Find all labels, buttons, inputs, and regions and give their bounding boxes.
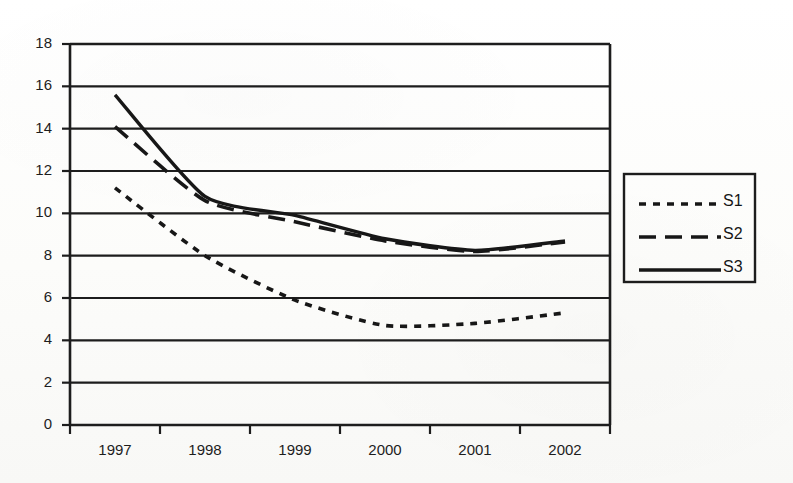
legend-label-s2: S2 bbox=[723, 225, 743, 243]
x-axis-label: 2001 bbox=[440, 441, 510, 458]
line-chart-plot bbox=[0, 0, 793, 483]
x-axis-label: 1998 bbox=[170, 441, 240, 458]
x-axis-label: 2002 bbox=[530, 441, 600, 458]
chart-container: 181614121086420 199719981999200020012002… bbox=[0, 0, 793, 483]
y-axis-label: 12 bbox=[22, 161, 52, 178]
x-axis-label: 2000 bbox=[350, 441, 420, 458]
plot-frame bbox=[70, 44, 610, 425]
x-axis-label: 1999 bbox=[260, 441, 330, 458]
legend-label-s1: S1 bbox=[723, 192, 743, 210]
y-axis-label: 8 bbox=[22, 246, 52, 263]
y-axis-label: 18 bbox=[22, 34, 52, 51]
x-axis-label: 1997 bbox=[80, 441, 150, 458]
y-axis-label: 0 bbox=[22, 415, 52, 432]
legend-swatches bbox=[639, 204, 721, 270]
gridlines bbox=[70, 44, 610, 425]
y-axis-label: 10 bbox=[22, 203, 52, 220]
y-axis-label: 14 bbox=[22, 119, 52, 136]
y-axis-label: 4 bbox=[22, 330, 52, 347]
series-line-s1 bbox=[115, 188, 565, 326]
series-line-s3 bbox=[115, 95, 565, 251]
series-line-s2 bbox=[115, 127, 565, 252]
y-axis-label: 2 bbox=[22, 373, 52, 390]
x-axis-ticks bbox=[70, 425, 610, 434]
y-axis-label: 16 bbox=[22, 76, 52, 93]
legend-label-s3: S3 bbox=[723, 258, 743, 276]
y-axis-label: 6 bbox=[22, 288, 52, 305]
